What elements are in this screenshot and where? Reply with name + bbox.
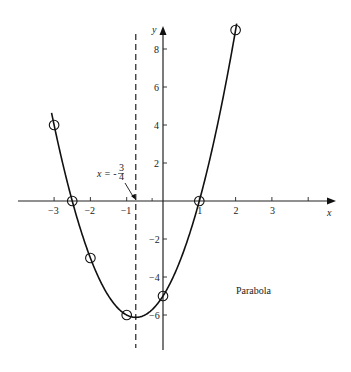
- parabola-chart: −3−2−11238642−2−4−6 y x x = - 3 4 Parabo…: [0, 0, 351, 372]
- symmetry-label-denominator: 4: [119, 171, 124, 182]
- data-points: [49, 25, 240, 320]
- y-axis-arrow-icon: [160, 26, 167, 35]
- parabola-curve: [52, 24, 237, 318]
- x-axis-label: x: [326, 207, 332, 218]
- ticks: −3−2−11238642−2−4−6: [48, 44, 308, 321]
- x-tick-label: 3: [270, 205, 275, 216]
- y-tick-label: 6: [154, 82, 159, 93]
- y-tick-label: 8: [154, 44, 159, 55]
- x-tick-label: −1: [121, 205, 132, 216]
- x-tick-label: −3: [48, 205, 59, 216]
- x-tick-label: −2: [84, 205, 95, 216]
- x-axis-arrow-icon: [327, 198, 336, 205]
- symmetry-label: x = - 3 4: [96, 162, 136, 200]
- y-tick-label: −2: [149, 234, 160, 245]
- parabola-caption: Parabola: [236, 285, 272, 296]
- y-tick-label: 4: [154, 120, 159, 131]
- y-tick-label: −4: [149, 272, 160, 283]
- y-tick-label: 2: [154, 158, 159, 169]
- symmetry-label-prefix: x = -: [96, 168, 117, 179]
- x-tick-label: 2: [234, 205, 239, 216]
- axes: [18, 26, 336, 350]
- y-axis-label: y: [151, 24, 157, 35]
